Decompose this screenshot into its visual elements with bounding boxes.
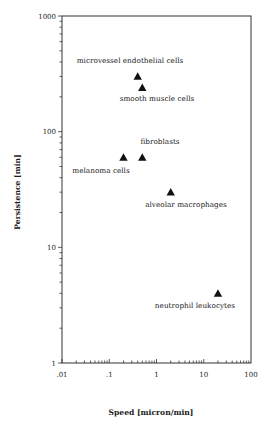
x-axis: .01.1110100: [56, 359, 257, 379]
x-tick-label: .1: [106, 371, 113, 379]
y-tick-label: 10: [47, 244, 56, 252]
triangle-marker: [119, 153, 127, 161]
chart-figure: .01.1110100 1101001000 microvessel endot…: [0, 0, 270, 428]
x-tick-label: 10: [199, 371, 208, 379]
plot-frame: [62, 16, 251, 363]
point-label: fibroblasts: [140, 137, 179, 146]
scatter-plot: .01.1110100 1101001000 microvessel endot…: [0, 0, 270, 428]
point-label: alveolar macrophages: [145, 200, 227, 209]
triangle-marker: [167, 188, 175, 196]
triangle-marker: [133, 72, 141, 80]
point-label: smooth muscle cells: [120, 94, 195, 103]
point-label: neutrophil leukocytes: [155, 301, 236, 310]
point-label: melanoma cells: [72, 166, 130, 175]
x-tick-label: 100: [244, 371, 257, 379]
y-tick-label: 1000: [38, 13, 56, 21]
y-tick-label: 100: [43, 128, 56, 136]
plot-border: [62, 16, 251, 363]
x-tick-label: .01: [56, 371, 67, 379]
triangle-marker: [138, 83, 146, 91]
data-points: microvessel endothelial cellssmooth musc…: [72, 56, 235, 310]
x-tick-label: 1: [154, 371, 158, 379]
x-axis-title: Speed [micron/min]: [109, 408, 194, 417]
triangle-marker: [138, 153, 146, 161]
point-label: microvessel endothelial cells: [77, 56, 184, 65]
y-axis: 1101001000: [38, 13, 62, 368]
y-axis-title: Persistence [min]: [13, 154, 22, 229]
triangle-marker: [214, 289, 222, 297]
y-tick-label: 1: [52, 360, 56, 368]
